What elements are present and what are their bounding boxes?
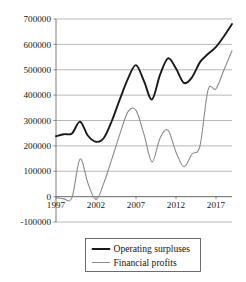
y-tick-label: 200000 [23,141,51,151]
legend-label-financial-profits: Financial profits [114,257,177,268]
line-chart: -100000010000020000030000040000050000060… [0,0,246,282]
chart-canvas: -100000010000020000030000040000050000060… [0,0,246,282]
y-tick-label: 700000 [23,14,51,24]
y-tick-label: 300000 [23,116,51,126]
chart-legend: Operating surplusesFinancial profits [86,239,201,272]
gridlines [56,19,232,222]
y-tick-label: 400000 [23,90,51,100]
data-series [56,24,232,201]
y-tick-label: 600000 [23,40,51,50]
x-tick-label: 1997 [47,200,66,210]
y-tick-label: -100000 [20,217,51,227]
series-line-operating-surpluses [56,24,232,142]
x-tick-label: 2017 [207,200,226,210]
x-tick-label: 2012 [167,200,186,210]
legend-label-operating-surpluses: Operating surpluses [114,243,191,254]
y-axis-tick-labels: -100000010000020000030000040000050000060… [20,14,51,227]
x-axis-tick-labels: 19972002200720122017 [47,200,226,210]
x-tick-label: 2002 [87,200,106,210]
x-tick-label: 2007 [127,200,146,210]
y-tick-label: 100000 [23,166,51,176]
y-tick-label: 500000 [23,65,51,75]
